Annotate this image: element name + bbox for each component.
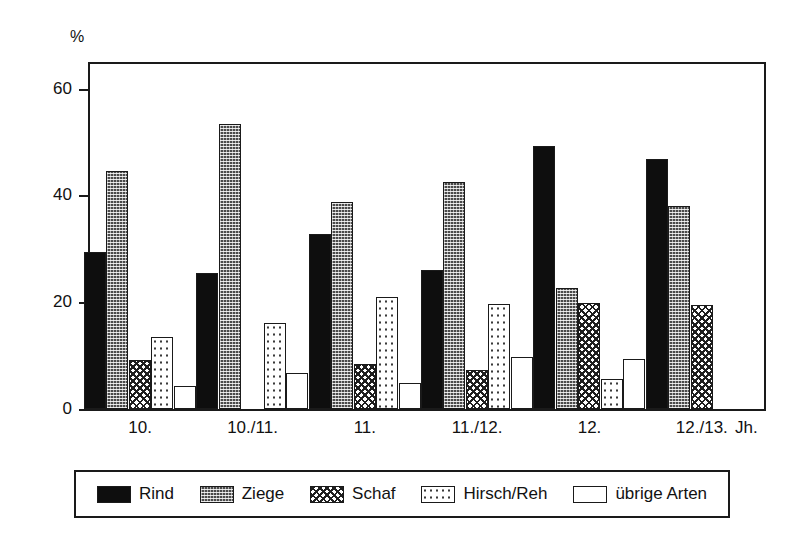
y-axis-tick-label: 40 xyxy=(24,185,72,205)
bar-group xyxy=(539,62,651,409)
bar xyxy=(354,364,376,409)
bar xyxy=(533,146,555,409)
y-axis-tick-label: 60 xyxy=(24,79,72,99)
y-axis-tick-label: 20 xyxy=(24,292,72,312)
bar-group xyxy=(315,62,427,409)
y-axis-tick xyxy=(79,195,88,197)
bar xyxy=(286,373,308,409)
legend-item-label: Rind xyxy=(139,484,174,504)
bar xyxy=(331,202,353,409)
bar xyxy=(511,357,533,409)
bar xyxy=(264,323,286,409)
x-axis-tick-label: 12./13. xyxy=(676,418,728,438)
bar xyxy=(196,273,218,409)
legend-item: Rind xyxy=(97,484,174,504)
bar-group xyxy=(652,62,764,409)
legend-item-label: Ziege xyxy=(242,484,285,504)
y-axis-unit-label: % xyxy=(70,28,85,46)
light-dots-swatch xyxy=(421,486,455,503)
bar xyxy=(601,379,623,409)
bar-group xyxy=(202,62,314,409)
bar xyxy=(219,124,241,409)
bar xyxy=(399,383,421,409)
bar xyxy=(421,270,443,409)
bar xyxy=(129,360,151,409)
bar xyxy=(578,303,600,409)
chart-legend: RindZiegeSchafHirsch/Rehübrige Arten xyxy=(74,470,730,518)
bar xyxy=(84,252,106,409)
bar xyxy=(174,386,196,409)
legend-item: Hirsch/Reh xyxy=(421,484,547,504)
x-axis-unit-label: Jh. xyxy=(735,418,758,438)
solid-black-swatch xyxy=(97,486,131,503)
x-axis-tick-label: 10./11. xyxy=(227,418,278,438)
bar xyxy=(376,297,398,409)
bars-layer xyxy=(90,62,764,409)
bar xyxy=(646,159,668,409)
x-axis-tick-label: 11./12. xyxy=(452,418,503,438)
y-axis-tick-label: 0 xyxy=(24,399,72,419)
bar xyxy=(106,171,128,409)
crosshatch-swatch xyxy=(310,486,344,503)
legend-item: Ziege xyxy=(200,484,285,504)
bar-group xyxy=(427,62,539,409)
white-swatch xyxy=(573,486,607,503)
x-axis-tick-label: 11. xyxy=(354,418,376,438)
bar xyxy=(443,182,465,409)
legend-item-label: übrige Arten xyxy=(615,484,707,504)
x-axis-tick-label: 10. xyxy=(128,418,152,438)
legend-item-label: Hirsch/Reh xyxy=(463,484,547,504)
bar xyxy=(309,234,331,409)
bar xyxy=(466,370,488,409)
legend-item-label: Schaf xyxy=(352,484,395,504)
legend-item: Schaf xyxy=(310,484,395,504)
bar xyxy=(488,304,510,409)
bar-group xyxy=(90,62,202,409)
bar xyxy=(623,359,645,409)
bar xyxy=(151,337,173,409)
bar-chart-figure: % 0204060 10.10./11.11.11./12.12.12./13.… xyxy=(0,0,804,550)
y-axis-tick xyxy=(79,89,88,91)
y-axis-tick xyxy=(79,409,88,411)
bar xyxy=(691,305,713,409)
x-axis-labels: 10.10./11.11.11./12.12.12./13. xyxy=(88,418,766,446)
bar xyxy=(556,288,578,409)
x-axis-tick-label: 12. xyxy=(578,418,602,438)
dense-dark-dots-swatch xyxy=(200,486,234,503)
bar xyxy=(668,206,690,409)
legend-item: übrige Arten xyxy=(573,484,707,504)
